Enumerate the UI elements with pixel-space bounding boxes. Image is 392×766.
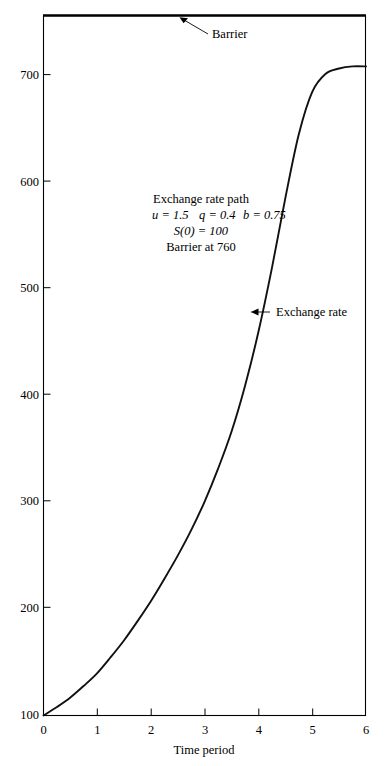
x-axis-labels: 0 1 2 3 4 5 6 bbox=[40, 723, 369, 737]
figure-container: 700 600 500 400 300 200 100 0 1 2 3 4 5 … bbox=[0, 0, 392, 766]
y-axis-ticks bbox=[44, 75, 51, 608]
note-param-b: b = 0.75 bbox=[243, 208, 286, 222]
exchange-rate-curve bbox=[44, 66, 367, 715]
x-tick-label-1: 1 bbox=[94, 723, 100, 737]
note-param-q: q = 0.4 bbox=[199, 208, 236, 222]
exchange-rate-chart: 700 600 500 400 300 200 100 0 1 2 3 4 5 … bbox=[0, 0, 392, 766]
x-tick-label-0: 0 bbox=[40, 723, 46, 737]
y-tick-label-100: 100 bbox=[20, 708, 39, 722]
x-tick-label-4: 4 bbox=[256, 723, 263, 737]
x-tick-label-5: 5 bbox=[310, 723, 316, 737]
barrier-annotation-label: Barrier bbox=[212, 27, 248, 41]
exchange-rate-annotation: Exchange rate bbox=[251, 305, 348, 319]
y-tick-label-600: 600 bbox=[20, 175, 39, 189]
y-axis-labels: 700 600 500 400 300 200 100 bbox=[20, 68, 39, 722]
x-tick-label-6: 6 bbox=[363, 723, 369, 737]
x-tick-label-2: 2 bbox=[148, 723, 154, 737]
x-tick-label-3: 3 bbox=[202, 723, 208, 737]
exchange-rate-arrowhead-icon bbox=[251, 309, 259, 316]
barrier-arrowhead-icon bbox=[180, 17, 189, 23]
y-tick-label-700: 700 bbox=[20, 68, 39, 82]
y-tick-label-500: 500 bbox=[20, 281, 39, 295]
note-param-s0: S(0) = 100 bbox=[174, 224, 229, 238]
exchange-rate-annotation-label: Exchange rate bbox=[276, 305, 348, 319]
x-axis-title: Time period bbox=[174, 743, 236, 757]
y-tick-label-200: 200 bbox=[20, 601, 39, 615]
note-line-title: Exchange rate path bbox=[153, 192, 250, 206]
y-tick-label-400: 400 bbox=[20, 388, 39, 402]
parameter-note-block: Exchange rate path u = 1.5 q = 0.4 b = 0… bbox=[152, 192, 286, 254]
note-param-u: u = 1.5 bbox=[152, 208, 189, 222]
barrier-annotation: Barrier bbox=[180, 17, 249, 41]
x-axis-ticks bbox=[97, 709, 312, 716]
note-barrier-value: Barrier at 760 bbox=[166, 240, 235, 254]
y-tick-label-300: 300 bbox=[20, 494, 39, 508]
plot-frame bbox=[44, 16, 366, 716]
